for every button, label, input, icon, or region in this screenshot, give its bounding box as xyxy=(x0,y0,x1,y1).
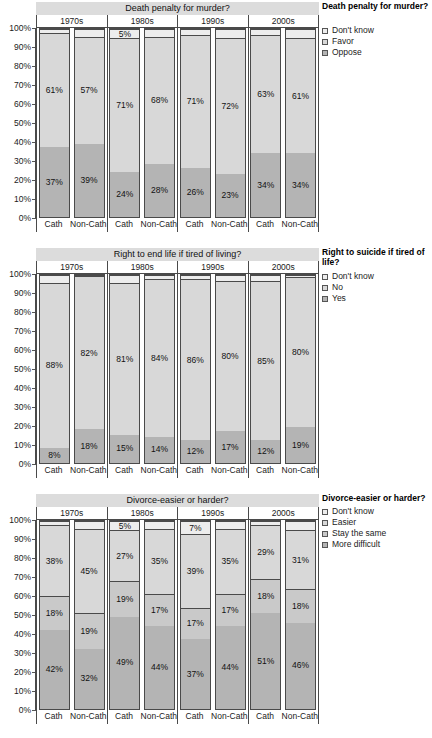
stacked-bar[interactable]: 32%19%45% xyxy=(74,520,105,710)
bar-segment: 86% xyxy=(181,279,210,441)
stacked-bar[interactable]: 44%17%35% xyxy=(215,520,246,710)
bar-segment: 17% xyxy=(216,594,245,626)
bar-segment: 18% xyxy=(75,429,104,463)
bar-cell: 44%17%35% xyxy=(142,520,177,710)
legend: Don't knowNoYes xyxy=(322,271,432,304)
stacked-bar[interactable]: 37%61% xyxy=(39,28,70,218)
plot-area: 37%61%39%57%24%71%5%28%68%26%71%23%72%34… xyxy=(36,28,319,218)
legend-item-label: Don't know xyxy=(332,271,374,282)
legend-item[interactable]: Don't know xyxy=(322,271,432,282)
bar-cell: 15%81% xyxy=(108,274,143,464)
bar-segment: 37% xyxy=(181,639,210,709)
stacked-bar[interactable]: 15%81% xyxy=(109,274,140,464)
bar-segment-label: 15% xyxy=(116,444,133,453)
bar-segment: 61% xyxy=(286,38,315,153)
bar-segment: 82% xyxy=(75,276,104,429)
stacked-bar[interactable]: 44%17%35% xyxy=(144,520,175,710)
x-label-group: CathNon-Cath xyxy=(248,218,320,232)
stacked-bar[interactable]: 51%18%29% xyxy=(250,520,281,710)
bar-segment: 32% xyxy=(75,649,104,709)
decade-label: 2000s xyxy=(248,261,320,273)
plot-area: 8%88%18%82%15%81%14%84%12%86%17%80%12%85… xyxy=(36,274,319,464)
y-axis-tick-label: 70% xyxy=(14,573,31,581)
stacked-bar[interactable]: 14%84% xyxy=(144,274,175,464)
legend-item-label: Don't know xyxy=(332,25,374,36)
bar-segment-label: 17% xyxy=(151,606,168,615)
bar-cell: 14%84% xyxy=(142,274,177,464)
bar-segment-label: 85% xyxy=(257,357,274,366)
stacked-bar[interactable]: 24%71%5% xyxy=(109,28,140,218)
legend-item[interactable]: Don't know xyxy=(322,25,432,36)
x-label-group: CathNon-Cath xyxy=(177,464,248,478)
legend-item[interactable]: Don't know xyxy=(322,506,432,517)
x-axis-tick-label: Non-Cath xyxy=(70,710,106,724)
stacked-bar[interactable]: 8%88% xyxy=(39,274,70,464)
bar-segment: 17% xyxy=(145,594,174,626)
legend-swatch-icon xyxy=(322,542,328,548)
x-axis-labels: CathNon-CathCathNon-CathCathNon-CathCath… xyxy=(36,218,319,232)
stacked-bar[interactable]: 26%71% xyxy=(180,28,211,218)
bar-segment-label: 46% xyxy=(292,661,309,670)
legend-item[interactable]: Favor xyxy=(322,36,432,47)
bar-segment-label: 35% xyxy=(222,557,239,566)
y-axis-tick-label: 0% xyxy=(19,706,31,714)
bar-cell: 23%72% xyxy=(213,28,248,218)
bar-segment: 61% xyxy=(40,33,69,148)
legend-item-label: More difficult xyxy=(332,539,380,550)
stacked-bar[interactable]: 17%80% xyxy=(215,274,246,464)
bar-segment-label: 5% xyxy=(119,30,131,39)
stacked-bar[interactable]: 23%72% xyxy=(215,28,246,218)
bar-segment-label: 17% xyxy=(222,606,239,615)
y-axis-tick-label: 30% xyxy=(14,403,31,411)
bar-cell: 28%68% xyxy=(142,28,177,218)
legend-item[interactable]: Easier xyxy=(322,517,432,528)
bar-segment-label: 35% xyxy=(151,557,168,566)
plot-area: 42%18%38%32%19%45%49%19%27%5%44%17%35%37… xyxy=(36,520,319,710)
stacked-bar[interactable]: 46%18%31% xyxy=(285,520,316,710)
stacked-bar[interactable]: 19%80% xyxy=(285,274,316,464)
stacked-bar[interactable]: 34%61% xyxy=(285,28,316,218)
stacked-bar[interactable]: 39%57% xyxy=(74,28,105,218)
decade-group: 26%71%23%72% xyxy=(177,28,248,218)
y-axis-tick-label: 70% xyxy=(14,327,31,335)
bar-segment-label: 18% xyxy=(292,602,309,611)
decade-group: 34%63%34%61% xyxy=(248,28,320,218)
stacked-bar[interactable]: 42%18%38% xyxy=(39,520,70,710)
decade-label: 1990s xyxy=(177,261,248,273)
y-axis-tick-label: 10% xyxy=(14,441,31,449)
y-axis-tick-label: 10% xyxy=(14,687,31,695)
bar-segment-label: 37% xyxy=(46,178,63,187)
legend-item[interactable]: Stay the same xyxy=(322,528,432,539)
stacked-bar[interactable]: 28%68% xyxy=(144,28,175,218)
legend-item[interactable]: No xyxy=(322,282,432,293)
bar-segment: 5% xyxy=(110,29,139,38)
chart-panel-2: Right to end life if tired of living?Rig… xyxy=(0,246,432,492)
legend-item[interactable]: Oppose xyxy=(322,47,432,58)
bar-segment-label: 51% xyxy=(257,657,274,666)
legend-item[interactable]: Yes xyxy=(322,293,432,304)
y-axis-tick-label: 40% xyxy=(14,138,31,146)
bar-segment: 14% xyxy=(145,437,174,463)
x-axis-labels: CathNon-CathCathNon-CathCathNon-CathCath… xyxy=(36,710,319,724)
stacked-bar[interactable]: 18%82% xyxy=(74,274,105,464)
bar-segment: 12% xyxy=(181,440,210,463)
bar-segment: 37% xyxy=(40,147,69,217)
bar-segment: 46% xyxy=(286,623,315,709)
bar-segment xyxy=(75,275,104,276)
bar-segment-label: 32% xyxy=(81,674,98,683)
x-label-group: CathNon-Cath xyxy=(107,710,178,724)
bar-segment: 45% xyxy=(75,529,104,614)
stacked-bar[interactable]: 37%17%39%7% xyxy=(180,520,211,710)
stacked-bar[interactable]: 12%85% xyxy=(250,274,281,464)
x-label-group: CathNon-Cath xyxy=(248,464,320,478)
y-axis-tick-label: 0% xyxy=(19,460,31,468)
y-axis-tick-label: 10% xyxy=(14,195,31,203)
y-axis: 100%90%80%70%60%50%40%30%20%10%0% xyxy=(0,28,36,218)
legend-item[interactable]: More difficult xyxy=(322,539,432,550)
bar-segment-label: 34% xyxy=(292,181,309,190)
stacked-bar[interactable]: 49%19%27%5% xyxy=(109,520,140,710)
stacked-bar[interactable]: 34%63% xyxy=(250,28,281,218)
bar-segment: 80% xyxy=(286,277,315,427)
stacked-bar[interactable]: 12%86% xyxy=(180,274,211,464)
bar-segment xyxy=(40,521,69,525)
